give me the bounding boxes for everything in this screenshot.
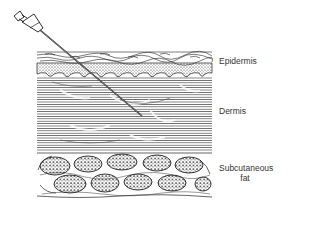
dermis-layer bbox=[37, 76, 212, 152]
subcutaneous-label-line1: Subcutaneous bbox=[219, 163, 271, 173]
subcutaneous-fat-layer bbox=[37, 152, 212, 198]
epidermis-layer bbox=[37, 51, 213, 77]
subcutaneous-fat-label: Subcutaneous fat bbox=[219, 163, 271, 183]
dermis-label: Dermis bbox=[219, 106, 246, 116]
epidermis-label: Epidermis bbox=[219, 56, 257, 66]
stratum-basale bbox=[37, 63, 212, 77]
subcutaneous-label-line2: fat bbox=[219, 173, 271, 183]
